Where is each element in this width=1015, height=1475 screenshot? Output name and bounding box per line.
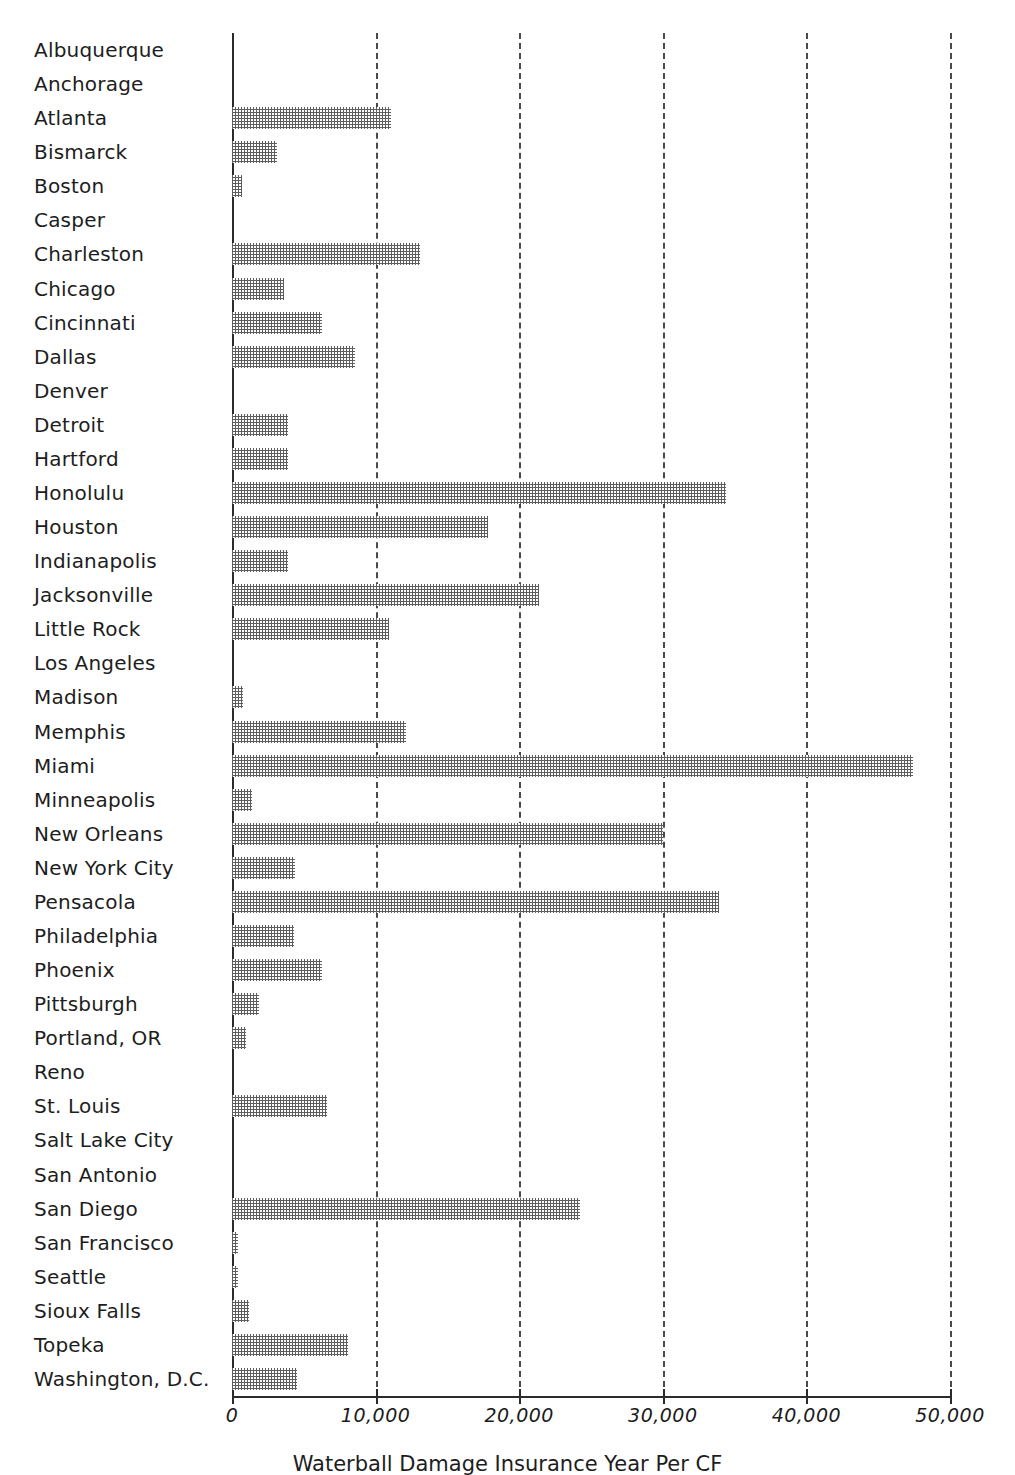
category-label: Pensacola bbox=[34, 890, 224, 914]
bar bbox=[232, 789, 252, 811]
bar bbox=[232, 823, 663, 845]
x-axis-tick-label: 0 bbox=[226, 1404, 239, 1426]
bar bbox=[232, 857, 295, 879]
category-label: Salt Lake City bbox=[34, 1128, 224, 1152]
category-label: Jacksonville bbox=[34, 583, 224, 607]
category-label: Washington, D.C. bbox=[34, 1367, 224, 1391]
category-label: San Francisco bbox=[34, 1231, 224, 1255]
category-label: Chicago bbox=[34, 277, 224, 301]
category-label: Memphis bbox=[34, 720, 224, 744]
bar bbox=[232, 1198, 580, 1220]
x-axis-tick bbox=[376, 1389, 378, 1404]
bar bbox=[232, 141, 277, 163]
bar bbox=[232, 891, 719, 913]
x-axis-tick-label: 30,000 bbox=[628, 1404, 697, 1426]
category-label: Boston bbox=[34, 174, 224, 198]
x-axis-tick bbox=[950, 1389, 952, 1404]
bar bbox=[232, 346, 355, 368]
category-label: Sioux Falls bbox=[34, 1299, 224, 1323]
bar bbox=[232, 1334, 348, 1356]
category-label: Pittsburgh bbox=[34, 992, 224, 1016]
category-label: Reno bbox=[34, 1060, 224, 1084]
bar bbox=[232, 482, 726, 504]
y-axis-line bbox=[232, 33, 234, 1397]
category-label: Honolulu bbox=[34, 481, 224, 505]
x-axis-tick bbox=[663, 1389, 665, 1404]
bar bbox=[232, 721, 406, 743]
category-label: Phoenix bbox=[34, 958, 224, 982]
bar bbox=[232, 1300, 249, 1322]
bar bbox=[232, 1266, 238, 1288]
category-label: Anchorage bbox=[34, 72, 224, 96]
x-axis-line bbox=[232, 1396, 952, 1398]
x-axis-tick bbox=[519, 1389, 521, 1404]
category-label: Miami bbox=[34, 754, 224, 778]
category-label: Portland, OR bbox=[34, 1026, 224, 1050]
category-label: Cincinnati bbox=[34, 311, 224, 335]
bar bbox=[232, 1095, 327, 1117]
category-label: San Antonio bbox=[34, 1163, 224, 1187]
gridline-10000 bbox=[376, 33, 378, 1397]
bar bbox=[232, 584, 539, 606]
x-axis-tick-label: 50,000 bbox=[915, 1404, 984, 1426]
category-label: Indianapolis bbox=[34, 549, 224, 573]
category-label: Little Rock bbox=[34, 617, 224, 641]
category-label: Albuquerque bbox=[34, 38, 224, 62]
category-label: New York City bbox=[34, 856, 224, 880]
bar bbox=[232, 175, 242, 197]
x-axis-tick-label: 20,000 bbox=[484, 1404, 553, 1426]
x-axis-tick-label: 40,000 bbox=[772, 1404, 841, 1426]
bar bbox=[232, 312, 322, 334]
bar bbox=[232, 959, 322, 981]
bar bbox=[232, 448, 288, 470]
horizontal-bar-chart: 010,00020,00030,00040,00050,000 Albuquer… bbox=[0, 0, 1015, 1475]
category-label: Hartford bbox=[34, 447, 224, 471]
category-label: Minneapolis bbox=[34, 788, 224, 812]
bar bbox=[232, 550, 288, 572]
category-label: Charleston bbox=[34, 242, 224, 266]
category-label: Seattle bbox=[34, 1265, 224, 1289]
category-label: Bismarck bbox=[34, 140, 224, 164]
bar bbox=[232, 516, 488, 538]
category-label: Detroit bbox=[34, 413, 224, 437]
category-label: Topeka bbox=[34, 1333, 224, 1357]
gridline-20000 bbox=[519, 33, 521, 1397]
x-axis-title: Waterball Damage Insurance Year Per CF bbox=[0, 1452, 1015, 1475]
bar bbox=[232, 1368, 297, 1390]
category-label: Casper bbox=[34, 208, 224, 232]
bar bbox=[232, 618, 389, 640]
gridline-40000 bbox=[806, 33, 808, 1397]
category-label: Madison bbox=[34, 685, 224, 709]
category-label: Houston bbox=[34, 515, 224, 539]
bar bbox=[232, 686, 243, 708]
x-axis-tick-label: 10,000 bbox=[341, 1404, 410, 1426]
bar bbox=[232, 1027, 246, 1049]
gridline-30000 bbox=[663, 33, 665, 1397]
category-label: San Diego bbox=[34, 1197, 224, 1221]
bar bbox=[232, 414, 288, 436]
bar bbox=[232, 243, 420, 265]
category-label: New Orleans bbox=[34, 822, 224, 846]
category-label: St. Louis bbox=[34, 1094, 224, 1118]
x-axis-tick bbox=[806, 1389, 808, 1404]
bar bbox=[232, 278, 284, 300]
bar bbox=[232, 1232, 238, 1254]
bar bbox=[232, 993, 259, 1015]
bar bbox=[232, 925, 294, 947]
bar bbox=[232, 107, 391, 129]
category-label: Los Angeles bbox=[34, 651, 224, 675]
category-label: Philadelphia bbox=[34, 924, 224, 948]
category-label: Dallas bbox=[34, 345, 224, 369]
category-label: Denver bbox=[34, 379, 224, 403]
gridline-50000 bbox=[950, 33, 952, 1397]
x-axis-tick bbox=[232, 1389, 234, 1404]
category-label: Atlanta bbox=[34, 106, 224, 130]
bar bbox=[232, 755, 913, 777]
